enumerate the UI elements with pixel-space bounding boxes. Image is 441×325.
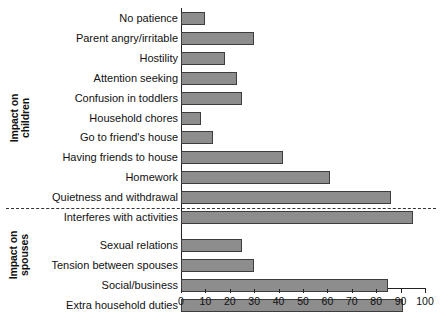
bar [181,32,254,45]
x-axis-tick [401,289,402,293]
bar [181,171,330,184]
x-axis-tick [230,289,231,293]
x-axis-tick [254,289,255,293]
bar [181,259,254,272]
category-label: Interferes with activities [0,211,178,224]
bar [181,211,413,224]
category-label: Tension between spouses [0,259,178,272]
bar [181,112,201,125]
bar [181,239,242,252]
category-label: Homework [0,171,178,184]
x-axis-tick [303,289,304,293]
x-axis-tick [425,289,426,293]
category-label-column: No patienceParent angry/irritableHostili… [0,0,178,325]
category-label: Household chores [0,112,178,125]
bar [181,12,205,25]
bar [181,72,237,85]
group-separator-dashed-line [6,208,436,209]
bar [181,279,388,292]
x-axis-tick-label: 100 [410,295,440,307]
bar [181,52,225,65]
x-axis-tick [376,289,377,293]
bar [181,131,213,144]
category-label: Social/business [0,279,178,292]
plot-area: 0102030405060708090100 [181,8,425,289]
category-label: No patience [0,12,178,25]
category-label: Confusion in toddlers [0,92,178,105]
category-label: Extra household duties [0,299,178,312]
x-axis-tick [327,289,328,293]
category-label: Quietness and withdrawal [0,191,178,204]
category-label: Parent angry/irritable [0,32,178,45]
category-label: Attention seeking [0,72,178,85]
bar [181,191,391,204]
bar [181,92,242,105]
x-axis-tick [181,289,182,293]
category-label: Sexual relations [0,239,178,252]
category-label: Hostility [0,52,178,65]
bar [181,151,283,164]
category-label: Having friends to house [0,151,178,164]
x-axis-tick [352,289,353,293]
horizontal-bar-chart: Impact on children Impact on spouses No … [0,0,441,325]
x-axis-tick [205,289,206,293]
x-axis-tick [279,289,280,293]
category-label: Go to friend's house [0,131,178,144]
